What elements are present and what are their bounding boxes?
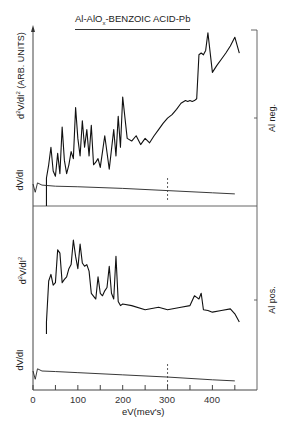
d2v-di2-curve-al-neg <box>46 33 239 206</box>
figure: Al-AlOx-BENZOIC ACID-Pb d2V/dI2 (ARB. UN… <box>0 0 290 425</box>
chart-canvas <box>0 0 290 425</box>
x-tick-label-0: 0 <box>30 394 35 405</box>
dvdi-curve-al-neg <box>33 183 235 194</box>
top-ylabel: d2V/dI2 (ARB. UNITS) <box>15 21 26 131</box>
x-ticks <box>33 385 235 390</box>
x-tick-label-400: 400 <box>204 394 220 405</box>
x-tick-label-300: 300 <box>159 394 175 405</box>
x-axis-label: eV(mev's) <box>122 406 164 417</box>
d2v-di2-curve-al-pos <box>46 240 239 334</box>
x-tick-label-200: 200 <box>115 394 131 405</box>
bottom-ylabel: d2V/dI2 <box>17 251 28 291</box>
dvdi-curve-al-pos <box>33 369 235 381</box>
bottom-dvdi-label: dV/dI <box>15 345 25 375</box>
top-right-label: Al neg. <box>267 98 277 138</box>
top-dvdi-label: dV/dI <box>15 165 25 195</box>
series-group <box>33 33 239 388</box>
y-axis-arrow-icon <box>31 25 35 32</box>
x-tick-label-100: 100 <box>70 394 86 405</box>
bottom-right-label: Al pos. <box>267 280 277 320</box>
chart-title: Al-AlOx-BENZOIC ACID-Pb <box>75 13 190 30</box>
